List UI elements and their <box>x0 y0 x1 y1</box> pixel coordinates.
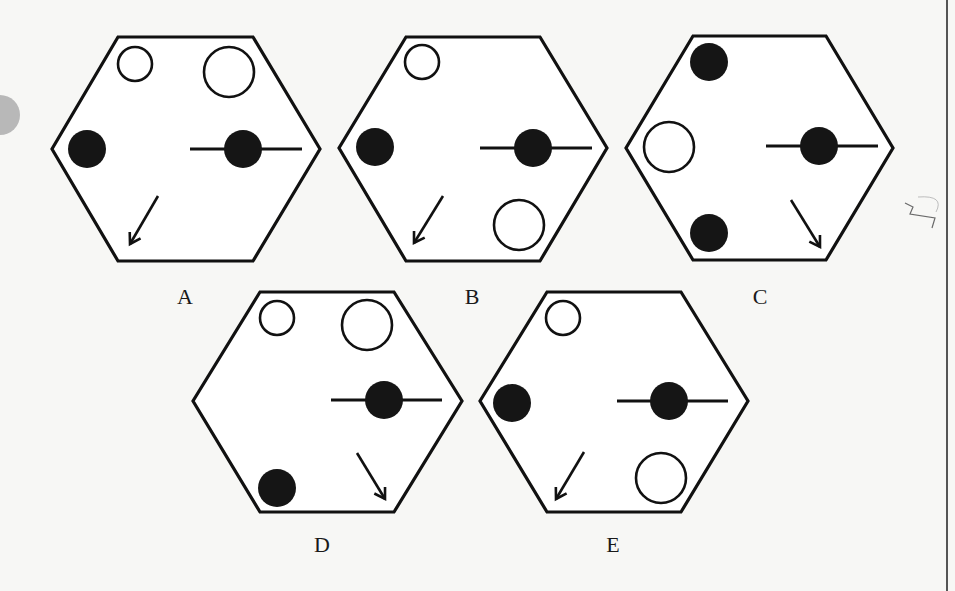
filled-circle-on-bar <box>800 127 838 165</box>
option-label-a: A <box>177 286 193 308</box>
filled-circle <box>258 469 296 507</box>
option-d[interactable] <box>193 292 462 512</box>
option-e[interactable] <box>480 292 748 512</box>
pencil-mark <box>905 203 935 228</box>
filled-circle-on-bar <box>650 382 688 420</box>
option-b[interactable] <box>339 37 607 261</box>
filled-circle-on-bar <box>224 130 262 168</box>
filled-circle <box>356 128 394 166</box>
filled-circle <box>68 130 106 168</box>
option-label-c: C <box>753 286 768 308</box>
filled-circle <box>690 214 728 252</box>
hexagon-outline <box>193 292 462 512</box>
page-edge-line <box>946 0 948 591</box>
filled-circle <box>690 43 728 81</box>
filled-circle-on-bar <box>514 129 552 167</box>
option-c[interactable] <box>626 36 893 260</box>
option-label-d: D <box>314 534 330 556</box>
filled-circle-on-bar <box>365 381 403 419</box>
pencil-mark-faint <box>918 197 938 212</box>
option-label-b: B <box>465 286 480 308</box>
option-a[interactable] <box>52 37 320 261</box>
filled-circle <box>493 384 531 422</box>
hexagon-outline <box>626 36 893 260</box>
option-label-e: E <box>606 534 619 556</box>
